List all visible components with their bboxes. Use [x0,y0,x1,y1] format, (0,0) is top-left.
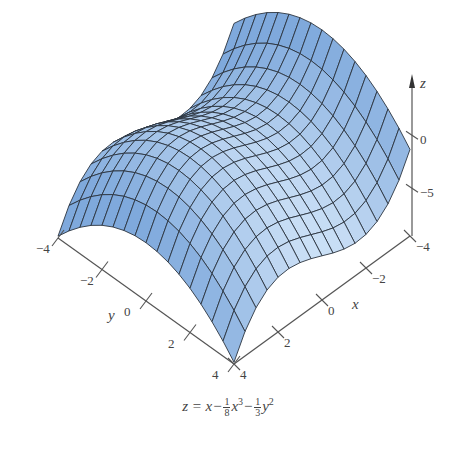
z-tick-label: 0 [420,133,427,146]
y-axis-label: y [108,308,115,323]
surface-plot [0,0,456,449]
x-tick [360,262,372,274]
caption-lhs: z = x [182,398,212,414]
x-axis-label: x [352,297,359,312]
x-tick [404,230,416,242]
y-tick [52,230,64,246]
x-tick-label: 2 [284,336,291,349]
fraction-1-8: 18 [223,397,230,418]
x-tick [272,326,284,338]
z-axis-arrow-icon [409,74,415,88]
z-axis-label: z [420,76,426,91]
y-tick [184,325,196,341]
y-tick-label: −2 [80,274,94,287]
equation-caption: z = x−18x3−13y2 [0,396,456,418]
y-tick [96,262,108,278]
y-tick-label: 4 [212,368,219,381]
y-tick [140,293,152,309]
x-tick-label: −2 [372,272,386,285]
z-tick-label: −5 [420,186,434,199]
y-tick-label: −4 [36,242,50,255]
x-tick [316,294,328,306]
y-tick-label: 0 [124,305,131,318]
x-tick-label: −4 [416,240,430,253]
x-tick-label: 0 [328,304,335,317]
surface-plot-figure: −4−2024−4−20240−5xyz z = x−18x3−13y2 [0,0,456,449]
fraction-1-3: 13 [254,397,261,418]
y-tick-label: 2 [168,337,175,350]
x-tick-label: 4 [240,368,247,381]
